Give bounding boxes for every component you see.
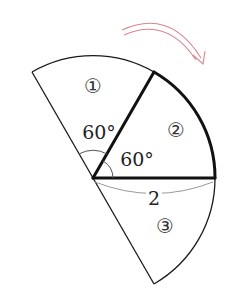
- angle-arc-sector-2: [103, 161, 113, 178]
- sector-1-label: ①: [84, 74, 102, 98]
- radius-label: 2: [148, 187, 160, 209]
- rotation-arrow-icon: [122, 23, 205, 64]
- angle-1-label: 60°: [82, 121, 116, 143]
- angle-2-label: 60°: [120, 148, 154, 170]
- angle-arc-sector-1: [79, 150, 107, 154]
- sector-3-label: ③: [156, 214, 174, 238]
- sector-2-label: ②: [167, 118, 185, 142]
- sector-diagram: ① ② ③ 60° 60° 2: [0, 0, 234, 298]
